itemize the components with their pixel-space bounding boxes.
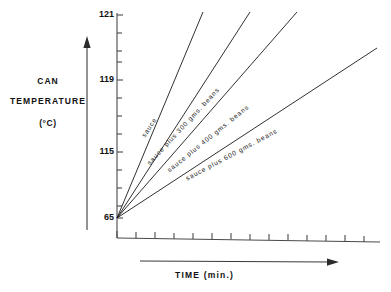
y-tick-label-65: 65 [88, 212, 114, 222]
series-line-sauce-plus-600 [117, 48, 377, 218]
y-axis-ticks [117, 15, 123, 218]
series-lines [117, 12, 377, 218]
series-line-sauce-plus-400 [117, 12, 297, 218]
chart-container: 121 119 115 65 CAN TEMPERATURE (°C) TIME… [0, 0, 391, 292]
y-axis-direction-arrow [83, 36, 90, 230]
x-axis-direction-arrow [140, 259, 339, 266]
y-axis-title-line-2: TEMPERATURE [0, 96, 96, 106]
y-tick-label-121: 121 [88, 9, 114, 19]
y-axis-title-line-1: CAN [0, 76, 96, 86]
y-tick-label-115: 115 [88, 146, 114, 156]
y-axis-title-units: (°C) [0, 118, 96, 128]
x-axis-line [117, 238, 380, 242]
x-axis-title: TIME (min.) [175, 270, 295, 280]
